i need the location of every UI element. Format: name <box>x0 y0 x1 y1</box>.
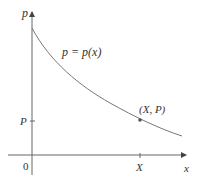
point-XP <box>138 118 142 122</box>
demand-curve-diagram: p x p = p(x) 0 P X (X, P) <box>0 0 199 181</box>
curve-label: p = p(x) <box>61 45 101 59</box>
x-tick-label: X <box>135 161 144 173</box>
y-tick-label: P <box>19 115 27 127</box>
point-label: (X, P) <box>139 103 166 116</box>
x-axis-label: x <box>183 162 189 174</box>
origin-label: 0 <box>23 160 29 172</box>
y-axis-label: p <box>21 6 28 20</box>
demand-curve <box>32 28 182 136</box>
